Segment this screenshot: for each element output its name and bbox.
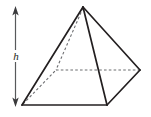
solid-edge-apex-to-front-right	[83, 7, 107, 105]
solid-edge-apex-to-front-left	[22, 7, 83, 105]
solid-edge-base-right	[107, 70, 140, 105]
hidden-edge-base-back-left	[23, 70, 56, 104]
solid-edges-group	[22, 7, 140, 105]
hidden-edge-apex-to-back	[56, 8, 83, 70]
pyramid-figure: h	[0, 0, 151, 117]
height-label: h	[8, 50, 24, 62]
